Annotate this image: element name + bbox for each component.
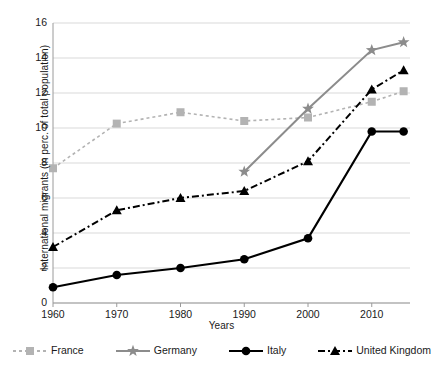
legend-label: Italy bbox=[267, 344, 286, 356]
marker-circle bbox=[367, 127, 376, 136]
marker-triangle bbox=[399, 65, 409, 74]
series-line bbox=[244, 42, 403, 172]
marker-square bbox=[26, 347, 34, 355]
y-tick-label: 4 bbox=[21, 226, 47, 238]
marker-triangle bbox=[367, 85, 377, 94]
y-tick-label: 8 bbox=[21, 156, 47, 168]
series-italy bbox=[49, 127, 408, 291]
marker-circle bbox=[399, 127, 408, 136]
chart-legend: FranceGermanyItalyUnited Kingdom bbox=[0, 339, 443, 361]
marker-square bbox=[49, 164, 57, 172]
y-tick-label: 6 bbox=[21, 191, 47, 203]
legend-swatch-square-icon bbox=[12, 344, 48, 356]
marker-circle bbox=[240, 255, 249, 264]
legend-item-france[interactable]: France bbox=[12, 344, 84, 356]
marker-square bbox=[400, 87, 408, 95]
x-tick-label: 1990 bbox=[224, 308, 264, 320]
y-tick-label: 14 bbox=[21, 51, 47, 63]
x-tick-label: 1980 bbox=[161, 308, 201, 320]
legend-swatch-circle-icon bbox=[228, 344, 264, 356]
series-line bbox=[53, 70, 404, 247]
x-tick-label: 2010 bbox=[352, 308, 392, 320]
y-tick-label: 12 bbox=[21, 86, 47, 98]
x-tick-label: 2000 bbox=[288, 308, 328, 320]
x-tick-label: 1970 bbox=[97, 308, 137, 320]
marker-square bbox=[177, 108, 185, 116]
y-tick-label: 16 bbox=[21, 16, 47, 28]
marker-triangle bbox=[303, 156, 313, 165]
series-line bbox=[53, 91, 404, 168]
legend-swatch-triangle-icon bbox=[317, 344, 353, 356]
marker-star bbox=[127, 345, 139, 356]
legend-item-united-kingdom[interactable]: United Kingdom bbox=[317, 344, 431, 356]
marker-square bbox=[113, 120, 121, 128]
marker-square bbox=[368, 98, 376, 106]
marker-star bbox=[398, 36, 410, 47]
marker-triangle bbox=[48, 242, 58, 251]
migration-line-chart: International migrants (in perc. of tota… bbox=[0, 0, 443, 373]
marker-circle bbox=[304, 234, 313, 243]
marker-square bbox=[240, 117, 248, 125]
series-germany bbox=[238, 36, 409, 177]
legend-item-italy[interactable]: Italy bbox=[228, 344, 286, 356]
legend-item-germany[interactable]: Germany bbox=[115, 344, 197, 356]
x-axis-title: Years bbox=[0, 320, 443, 331]
marker-circle bbox=[242, 347, 251, 356]
marker-circle bbox=[176, 264, 185, 273]
y-tick-label: 0 bbox=[21, 296, 47, 308]
legend-swatch-star-icon bbox=[115, 344, 151, 356]
series-line bbox=[53, 132, 404, 288]
marker-circle bbox=[49, 283, 58, 292]
y-tick-label: 10 bbox=[21, 121, 47, 133]
legend-label: Germany bbox=[154, 344, 197, 356]
x-tick-label: 1960 bbox=[33, 308, 73, 320]
marker-square bbox=[304, 114, 312, 122]
legend-label: France bbox=[51, 344, 84, 356]
legend-label: United Kingdom bbox=[356, 344, 431, 356]
y-tick-label: 2 bbox=[21, 261, 47, 273]
marker-circle bbox=[112, 271, 121, 280]
